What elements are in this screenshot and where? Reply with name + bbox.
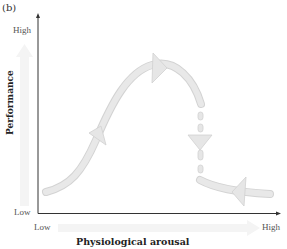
performance-curve xyxy=(46,53,270,206)
drop-arrowhead-icon xyxy=(188,135,212,150)
y-axis-high-label: High xyxy=(13,25,31,35)
y-axis-background-arrow xyxy=(16,44,33,206)
y-axis-arrowhead-icon xyxy=(36,13,40,18)
x-axis-high-label: High xyxy=(262,222,280,232)
x-axis-title: Physiological arousal xyxy=(76,236,189,247)
peak-arrowhead-icon xyxy=(152,53,167,83)
x-axis-low-label: Low xyxy=(34,222,51,232)
x-axis-arrowhead-icon xyxy=(276,212,281,216)
diagram-canvas xyxy=(0,0,287,249)
x-axis-background-arrow xyxy=(58,220,260,236)
y-axis-low-label: Low xyxy=(14,207,31,217)
lower-branch-arrowhead-icon xyxy=(232,177,246,206)
y-axis-title: Performance xyxy=(5,71,15,135)
